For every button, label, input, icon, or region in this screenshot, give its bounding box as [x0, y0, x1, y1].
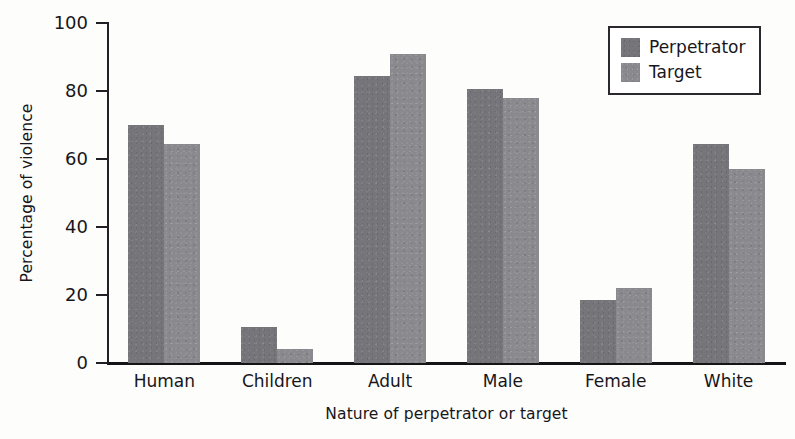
bar	[580, 300, 616, 363]
x-axis-tick-label: Children	[221, 371, 334, 391]
y-axis-tick-label: 40	[65, 218, 88, 236]
x-axis-title: Nature of perpetrator or target	[108, 405, 785, 423]
bar-group	[467, 23, 539, 363]
x-axis-tick-label: Male	[447, 371, 560, 391]
y-axis-tick: 40	[96, 226, 108, 228]
x-axis-line	[107, 362, 786, 365]
x-axis-tick-label: Female	[559, 371, 672, 391]
bar	[467, 89, 503, 363]
bar	[241, 327, 277, 363]
y-axis-tick-label: 0	[77, 354, 88, 372]
bar	[503, 98, 539, 363]
x-axis-tick-label: Adult	[334, 371, 447, 391]
y-axis-tick-label: 20	[65, 286, 88, 304]
bar-group	[128, 23, 200, 363]
bar-group	[241, 23, 313, 363]
bar	[164, 144, 200, 363]
bar	[390, 54, 426, 363]
bar	[729, 169, 765, 363]
bar	[277, 349, 313, 363]
y-axis-tick: 80	[96, 90, 108, 92]
bar	[128, 125, 164, 363]
y-axis-tick: 60	[96, 158, 108, 160]
y-axis-tick-label: 60	[65, 150, 88, 168]
y-axis-line	[107, 22, 109, 364]
y-axis-tick: 20	[96, 294, 108, 296]
chart-legend: PerpetratorTarget	[608, 26, 761, 95]
x-axis-tick-label: White	[672, 371, 785, 391]
y-axis-tick: 0	[96, 362, 108, 364]
legend-label: Target	[649, 64, 702, 81]
bar	[693, 144, 729, 363]
legend-label: Perpetrator	[649, 39, 745, 56]
x-axis-tick-label: Human	[108, 371, 221, 391]
bar	[616, 288, 652, 363]
y-axis-tick-label: 100	[54, 14, 88, 32]
legend-item: Perpetrator	[621, 35, 745, 60]
y-axis-tick-label: 80	[65, 82, 88, 100]
y-axis-title: Percentage of violence	[14, 23, 40, 363]
y-axis-tick: 100	[96, 22, 108, 24]
legend-swatch-perpetrator	[621, 38, 640, 57]
legend-item: Target	[621, 60, 745, 85]
bar-group	[354, 23, 426, 363]
bar-chart-figure: Percentage of violence 020406080100 Huma…	[0, 0, 795, 439]
legend-swatch-target	[621, 63, 640, 82]
bar	[354, 76, 390, 363]
